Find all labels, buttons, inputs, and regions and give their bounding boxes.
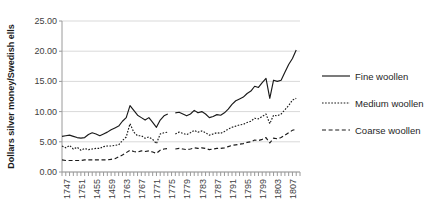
legend-label[interactable]: Fine woollen [355,71,408,82]
y-axis-title: Dollars silver money/Swedish ells [6,24,16,169]
x-tick-label: 1807 [288,179,298,199]
chart-container: 0.005.0010.0015.0020.0025.00 17471751145… [0,0,429,223]
series-line-coarse-woollen [62,129,296,160]
x-axis-tick-marks [62,172,300,176]
legend-label[interactable]: Medium woollen [355,98,424,109]
x-tick-label: 1783 [198,179,208,199]
legend-label[interactable]: Coarse woollen [355,125,420,136]
x-tick-label: 1787 [213,179,223,199]
y-axis-title-text: Dollars silver money/Swedish ells [6,24,16,169]
y-tick-label: 0.00 [39,167,57,177]
y-axis-tick-labels: 0.005.0010.0015.0020.0025.00 [34,16,62,177]
data-series-group [62,50,296,161]
y-tick-label: 20.00 [34,46,57,56]
x-tick-label: 1455 [92,179,102,199]
x-tick-label: 1771 [152,179,162,199]
x-tick-label: 1775 [167,179,177,199]
series-line-fine-woollen [62,50,296,138]
y-tick-label: 25.00 [34,16,57,26]
x-tick-label: 1751 [77,179,87,199]
x-tick-label: 1795 [243,179,253,199]
x-tick-label: 1799 [258,179,268,199]
y-tick-label: 5.00 [39,137,57,147]
x-tick-label: 1459 [107,179,117,199]
y-tick-label: 10.00 [34,107,57,117]
axes [62,21,300,172]
x-tick-label: 1779 [182,179,192,199]
x-axis-tick-labels: 1747175114551459176317671771177517791783… [62,179,299,199]
x-tick-label: 1791 [228,179,238,199]
gridlines [62,21,300,172]
line-chart: 0.005.0010.0015.0020.0025.00 17471751145… [0,0,429,223]
y-tick-label: 15.00 [34,76,57,86]
x-tick-label: 1767 [137,179,147,199]
series-line-medium-woollen [62,98,296,150]
x-tick-label: 1747 [62,179,72,199]
x-tick-label: 1803 [273,179,283,199]
chart-legend: Fine woollenMedium woollenCoarse woollen [322,71,424,136]
x-tick-label: 1763 [122,179,132,199]
